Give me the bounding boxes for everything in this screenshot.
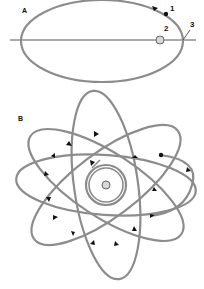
central-star-icon: [102, 181, 110, 189]
arrow-icon: [71, 231, 75, 236]
periapsis-pointer: [183, 30, 190, 40]
arrow-icon: [94, 131, 99, 137]
annotation-2: 2: [164, 24, 169, 33]
arrow-icon: [90, 240, 95, 245]
panel-a: A 1 2 3: [10, 0, 196, 82]
arrow-icon: [114, 241, 119, 246]
planet-dot-icon: [164, 12, 168, 16]
star-focus-icon: [156, 36, 164, 44]
panel-b-label: B: [18, 115, 23, 122]
arrow-icon: [44, 171, 49, 176]
annotation-1: 1: [170, 4, 175, 13]
arrow-icon: [53, 215, 58, 220]
orbit-diagram: A 1 2 3 B: [0, 0, 204, 289]
arrow-icon: [132, 226, 137, 231]
panel-a-label: A: [22, 7, 27, 14]
annotation-3: 3: [190, 20, 195, 29]
panel-b: B: [13, 86, 199, 283]
starting-point-dot-icon: [159, 153, 163, 157]
